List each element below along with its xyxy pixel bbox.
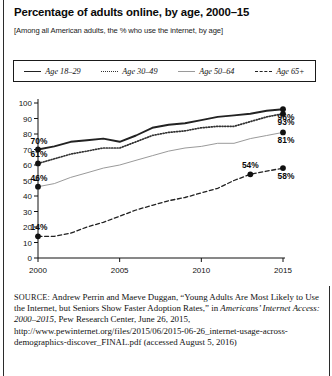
- x-tick-label: 2010: [192, 266, 210, 275]
- legend-line-dashed-icon: [255, 68, 272, 75]
- series-start-marker-1: [35, 161, 41, 167]
- source-note: SOURCE: Andrew Perrin and Maeve Duggan, …: [14, 292, 320, 348]
- series-annotation-label-3-0: 54%: [242, 160, 259, 170]
- x-tick-label: 2005: [111, 266, 129, 275]
- series-line-1: [38, 114, 283, 164]
- y-tick-label: 100: [19, 99, 33, 108]
- y-tick-label: 90: [23, 115, 32, 124]
- x-tick-label: 2015: [274, 266, 292, 275]
- series-end-label-3: 58%: [278, 171, 295, 181]
- legend-label: Age 18–29: [45, 67, 80, 76]
- legend-item-age-18-29[interactable]: Age 18–29: [24, 67, 80, 76]
- legend-item-age-50-64[interactable]: Age 50–64: [178, 67, 234, 76]
- x-tick-label: 2000: [29, 266, 47, 275]
- legend-item-age-65-plus[interactable]: Age 65+: [255, 67, 305, 76]
- legend-line-thin-icon: [178, 68, 195, 75]
- y-tick-label: 60: [23, 161, 32, 170]
- y-tick-label: 40: [23, 192, 32, 201]
- y-tick-label: 0: [28, 254, 33, 263]
- series-start-label-3: 14%: [31, 222, 48, 232]
- figure-page: Percentage of adults online, by age, 200…: [0, 0, 332, 376]
- chart-plot-area: 0102030405060708090100200020052010201570…: [0, 86, 332, 282]
- series-start-marker-3: [35, 233, 41, 239]
- legend-line-solid-icon: [24, 68, 41, 75]
- y-tick-label: 30: [23, 208, 32, 217]
- series-end-label-2: 81%: [278, 135, 295, 145]
- legend-item-age-30-49[interactable]: Age 30–49: [101, 67, 157, 76]
- source-line2: , Pew Research Center, June 26, 2015, ht…: [14, 314, 288, 346]
- series-line-0: [38, 109, 283, 149]
- chart-title: Percentage of adults online, by age, 200…: [14, 6, 320, 18]
- series-annotation-marker-3-0: [247, 171, 253, 177]
- legend-label: Age 50–64: [199, 67, 234, 76]
- series-start-label-1: 61%: [31, 149, 48, 159]
- line-chart: 0102030405060708090100200020052010201570…: [0, 86, 332, 282]
- legend-label: Age 30–49: [122, 67, 157, 76]
- series-start-label-2: 46%: [31, 173, 48, 183]
- source-prefix: SOURCE:: [14, 293, 50, 302]
- series-line-3: [38, 168, 283, 236]
- y-tick-label: 10: [23, 239, 32, 248]
- series-start-label-0: 70%: [31, 136, 48, 146]
- legend-label: Age 65+: [276, 67, 305, 76]
- chart-subtitle: [Among all American adults, the % who us…: [14, 26, 314, 35]
- series-start-marker-2: [35, 184, 41, 190]
- chart-legend: Age 18–29 Age 30–49 Age 50–64 Age 65+: [13, 60, 316, 82]
- series-end-label-1: 93%: [278, 117, 295, 127]
- page-right-rule: [329, 286, 330, 376]
- legend-line-dotted-icon: [101, 68, 118, 75]
